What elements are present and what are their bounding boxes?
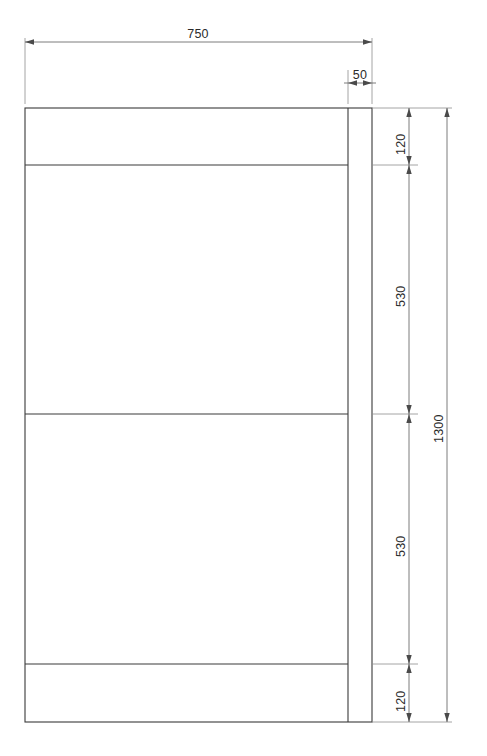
arrow-bottom-120-up <box>406 664 411 673</box>
engineering-drawing-svg: 750 50 120 530 <box>0 0 487 756</box>
dim-label-upper-530: 530 <box>394 286 408 307</box>
panel-outline <box>25 108 372 722</box>
dimension-overall-height: 1300 <box>432 108 450 722</box>
dimension-overall-width: 750 <box>25 27 372 45</box>
arrow-top-120-up <box>406 108 411 117</box>
arrow-top-120-down <box>406 156 411 165</box>
dimension-bottom-rail-120: 120 <box>394 664 412 722</box>
arrow-750-right <box>363 39 372 44</box>
dim-label-1300: 1300 <box>432 414 446 443</box>
arrow-upper-530-down <box>406 405 411 414</box>
dimension-lower-panel-530: 530 <box>394 414 412 664</box>
dim-label-50: 50 <box>353 68 367 82</box>
dimension-top-rail-120: 120 <box>394 108 412 165</box>
dim-label-750: 750 <box>187 27 208 41</box>
dimension-upper-panel-530: 530 <box>394 165 412 414</box>
arrow-upper-530-up <box>406 165 411 174</box>
extension-lines <box>25 38 452 722</box>
dimension-chain-right: 120 530 530 120 <box>394 108 412 722</box>
arrow-1300-top <box>444 108 449 117</box>
dim-label-bottom-120: 120 <box>394 691 408 712</box>
arrow-lower-530-down <box>406 655 411 664</box>
object-geometry <box>25 108 372 722</box>
arrow-lower-530-up <box>406 414 411 423</box>
arrow-bottom-120-down <box>406 713 411 722</box>
dimension-side-strip: 50 <box>344 68 376 86</box>
dim-label-top-120: 120 <box>394 134 408 155</box>
dim-label-lower-530: 530 <box>394 536 408 557</box>
arrow-750-left <box>25 39 34 44</box>
arrow-1300-bottom <box>444 713 449 722</box>
technical-drawing-canvas: 750 50 120 530 <box>0 0 487 756</box>
